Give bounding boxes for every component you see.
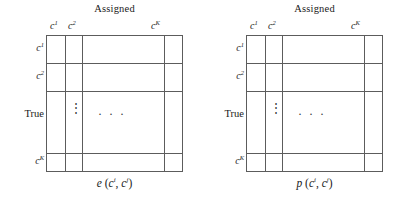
vertical-ellipsis: ⋮ <box>69 102 82 114</box>
grid-horizontal-line-3 <box>47 153 182 154</box>
row-header-cK: cK <box>0 155 44 167</box>
row-header-c2-sup: 2 <box>41 69 44 76</box>
row-header-c1-sup: 1 <box>241 41 244 48</box>
row-header-column: c1 c2 cK <box>0 0 44 202</box>
matrix-grid: ⋮ · · · <box>46 35 183 172</box>
matrix-caption: p (ci, cj) <box>246 176 383 191</box>
grid-horizontal-line-1 <box>47 63 182 64</box>
column-header-c1: c1 <box>50 19 58 33</box>
column-header-cK-sup: K <box>155 19 159 26</box>
column-header-cK-sup: K <box>355 19 359 26</box>
column-header-c2: c2 <box>68 19 76 33</box>
grid-horizontal-line-2 <box>47 91 182 92</box>
row-header-cK: cK <box>200 155 244 167</box>
row-header-c2: c2 <box>0 70 44 82</box>
caption-open-paren: ( <box>302 177 309 189</box>
grid-vertical-line-1 <box>65 36 66 171</box>
grid-horizontal-line-1 <box>247 63 382 64</box>
column-header-row: c1 c2 cK <box>46 19 183 34</box>
column-header-row: c1 c2 cK <box>246 19 383 34</box>
row-header-c2: c2 <box>200 70 244 82</box>
horizontal-ellipsis: · · · <box>291 108 333 120</box>
grid-horizontal-line-3 <box>247 153 382 154</box>
assigned-axis-title: Assigned <box>246 2 383 15</box>
column-header-cK: cK <box>351 19 360 33</box>
confusion-matrix-figure: Assigned c1 c2 cK c1 c2 cK True ⋮ · · · … <box>0 0 400 202</box>
true-axis-title: True <box>200 108 244 120</box>
column-header-c1-sup: 1 <box>54 19 57 26</box>
matrix-caption: e (ci, cj) <box>46 176 183 191</box>
caption-close-paren: ) <box>329 177 333 189</box>
column-header-cK: cK <box>151 19 160 33</box>
row-header-column: c1 c2 cK <box>200 0 244 202</box>
column-header-c1-sup: 1 <box>254 19 257 26</box>
caption-close-paren: ) <box>128 177 132 189</box>
row-header-c1: c1 <box>0 42 44 54</box>
row-header-cK-sup: K <box>240 154 244 161</box>
row-header-c2-sup: 2 <box>241 69 244 76</box>
grid-vertical-line-3 <box>164 36 165 171</box>
row-header-c1: c1 <box>200 42 244 54</box>
grid-vertical-line-2 <box>82 36 83 171</box>
column-header-c2: c2 <box>268 19 276 33</box>
grid-vertical-line-3 <box>364 36 365 171</box>
assigned-axis-title: Assigned <box>46 2 183 15</box>
horizontal-ellipsis: · · · <box>91 108 133 120</box>
grid-vertical-line-1 <box>265 36 266 171</box>
matrix-grid: ⋮ · · · <box>246 35 383 172</box>
column-header-c1: c1 <box>250 19 258 33</box>
caption-open-paren: ( <box>102 177 109 189</box>
matrix-panel-left: Assigned c1 c2 cK c1 c2 cK True ⋮ · · · … <box>0 0 200 202</box>
column-header-c2-sup: 2 <box>272 19 275 26</box>
grid-horizontal-line-2 <box>247 91 382 92</box>
row-header-cK-sup: K <box>40 154 44 161</box>
vertical-ellipsis: ⋮ <box>269 102 282 114</box>
matrix-panel-right: Assigned c1 c2 cK c1 c2 cK True ⋮ · · · … <box>200 0 400 202</box>
grid-vertical-line-2 <box>282 36 283 171</box>
column-header-c2-sup: 2 <box>72 19 75 26</box>
row-header-c1-sup: 1 <box>41 41 44 48</box>
true-axis-title: True <box>0 108 44 120</box>
